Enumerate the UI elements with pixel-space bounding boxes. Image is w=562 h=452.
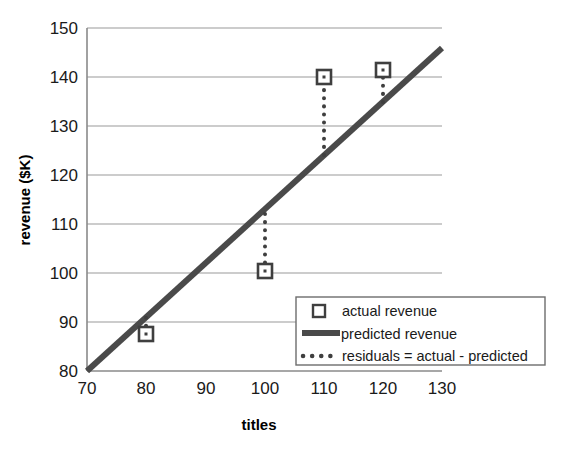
chart-canvas: 150 140 130 120 110 100 90 80	[0, 0, 562, 452]
y-tick-label: 130	[50, 117, 78, 136]
x-tick-label: 110	[310, 379, 337, 398]
x-axis-title: titles	[241, 416, 276, 433]
legend-label: residuals = actual - predicted	[342, 348, 528, 364]
x-tick-label: 120	[369, 379, 397, 398]
y-tick-label: 110	[51, 215, 78, 234]
chart-legend: actual revenue predicted revenue residua…	[296, 297, 545, 365]
marker-center-110	[323, 76, 326, 79]
marker-center-100	[264, 270, 267, 273]
y-tick-label: 120	[50, 166, 78, 185]
data-point-marker	[258, 264, 272, 278]
regression-residual-chart: 150 140 130 120 110 100 90 80	[0, 0, 562, 452]
marker-center-120	[382, 69, 385, 72]
legend-label: actual revenue	[342, 303, 437, 319]
y-tick-label: 140	[50, 68, 78, 87]
marker-center-80	[145, 333, 148, 336]
y-tick-label: 80	[59, 362, 78, 381]
y-tick-label: 150	[50, 19, 78, 38]
open-square-icon	[313, 305, 325, 317]
x-tick-label: 130	[428, 379, 456, 398]
data-point-marker	[139, 327, 153, 341]
legend-label: predicted revenue	[341, 326, 457, 342]
x-tick-label: 70	[78, 379, 97, 398]
data-point-marker	[376, 63, 390, 77]
data-point-marker	[317, 70, 331, 84]
y-tick-label: 100	[50, 264, 78, 283]
x-tick-label: 80	[137, 379, 156, 398]
x-tick-label: 100	[251, 379, 279, 398]
x-tick-label: 90	[197, 379, 216, 398]
y-tick-label: 90	[59, 313, 78, 332]
y-axis-title: revenue ($K)	[16, 155, 33, 246]
